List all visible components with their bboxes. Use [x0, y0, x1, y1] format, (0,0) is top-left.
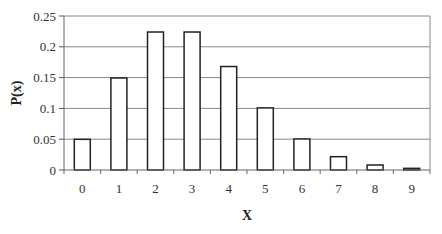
y-tick-label: 0.2: [40, 39, 56, 54]
x-tick-label: 8: [372, 181, 379, 196]
bar-2: [148, 32, 164, 170]
y-tick-label: 0.05: [33, 132, 56, 147]
y-axis-title: P(x): [9, 80, 25, 105]
x-tick-label: 4: [225, 181, 232, 196]
bar-7: [331, 157, 347, 170]
bar-0: [74, 139, 90, 170]
x-tick-label: 5: [262, 181, 269, 196]
bar-1: [111, 78, 127, 170]
x-tick-label: 1: [116, 181, 123, 196]
y-tick-label: 0.1: [40, 101, 56, 116]
bar-chart: 00.050.10.150.20.25 0123456789 P(x) X: [0, 0, 442, 234]
y-tick-labels: 00.050.10.150.20.25: [33, 9, 56, 178]
bars: [74, 32, 419, 170]
bar-8: [367, 165, 383, 170]
y-tick-label: 0: [50, 163, 57, 178]
bar-5: [257, 108, 273, 170]
bar-4: [221, 67, 237, 170]
bar-6: [294, 139, 310, 170]
y-tick-label: 0.25: [33, 9, 56, 24]
x-tick-labels: 0123456789: [79, 181, 415, 196]
x-tick-label: 3: [189, 181, 196, 196]
x-tick-label: 2: [152, 181, 159, 196]
y-tick-label: 0.15: [33, 70, 56, 85]
x-tick-label: 0: [79, 181, 86, 196]
bar-3: [184, 32, 200, 170]
x-axis-title: X: [242, 208, 252, 223]
x-tick-label: 7: [335, 181, 342, 196]
x-tick-label: 9: [408, 181, 415, 196]
x-tick-label: 6: [299, 181, 306, 196]
